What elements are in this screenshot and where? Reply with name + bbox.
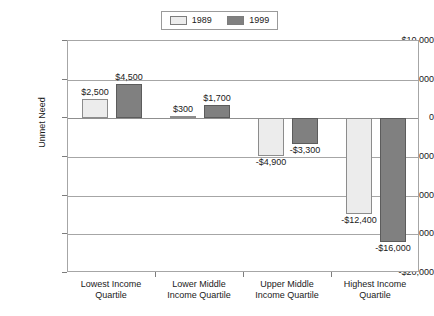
chart-legend: 1989 1999 xyxy=(161,11,278,30)
bar-value-label: -$4,900 xyxy=(239,158,303,167)
legend-entry-1989: 1989 xyxy=(170,16,212,25)
bar-value-label: -$16,000 xyxy=(361,244,425,253)
bar-value-label: -$3,300 xyxy=(273,146,337,155)
bar-value-label: $300 xyxy=(151,105,215,114)
x-category-label-line: Upper Middle xyxy=(243,279,331,290)
x-category-label: Highest IncomeQuartile xyxy=(331,279,419,301)
x-category-label: Lowest IncomeQuartile xyxy=(67,279,155,301)
legend-swatch-1999 xyxy=(227,16,244,25)
x-tick-mark xyxy=(155,272,156,277)
x-category-label-line: Lower Middle xyxy=(155,279,243,290)
x-category-label-line: Lowest Income xyxy=(67,279,155,290)
x-category-label-line: Income Quartile xyxy=(243,290,331,301)
legend-label-1999: 1999 xyxy=(249,16,269,25)
x-category-label-line: Income Quartile xyxy=(155,290,243,301)
legend-entry-1999: 1999 xyxy=(227,16,269,25)
bar-1989-4[interactable] xyxy=(346,118,372,214)
plot-area: $2,500$4,500$300$1,700-$4,900-$3,300-$12… xyxy=(67,40,419,272)
bar-1989-1[interactable] xyxy=(82,99,108,118)
bar-value-label: $4,500 xyxy=(97,73,161,82)
legend-swatch-1989 xyxy=(170,16,187,25)
x-category-label: Lower MiddleIncome Quartile xyxy=(155,279,243,301)
legend-label-1989: 1989 xyxy=(192,16,212,25)
x-tick-mark xyxy=(243,272,244,277)
x-category-label-line: Quartile xyxy=(331,290,419,301)
bar-1999-3[interactable] xyxy=(292,118,318,144)
y-axis-title: Unmet Need xyxy=(38,63,47,183)
bar-value-label: $2,500 xyxy=(63,88,127,97)
y-tick-mark xyxy=(62,272,67,273)
x-category-label-line: Quartile xyxy=(67,290,155,301)
bar-chart: 1989 1999 Unmet Need $10,000$5,0000-$5,0… xyxy=(0,0,434,316)
gridline xyxy=(68,234,418,235)
bar-value-label: $1,700 xyxy=(185,94,249,103)
x-category-label: Upper MiddleIncome Quartile xyxy=(243,279,331,301)
bar-1989-2[interactable] xyxy=(170,116,196,118)
x-tick-mark xyxy=(331,272,332,277)
x-category-label-line: Highest Income xyxy=(331,279,419,290)
bar-value-label: -$12,400 xyxy=(327,216,391,225)
